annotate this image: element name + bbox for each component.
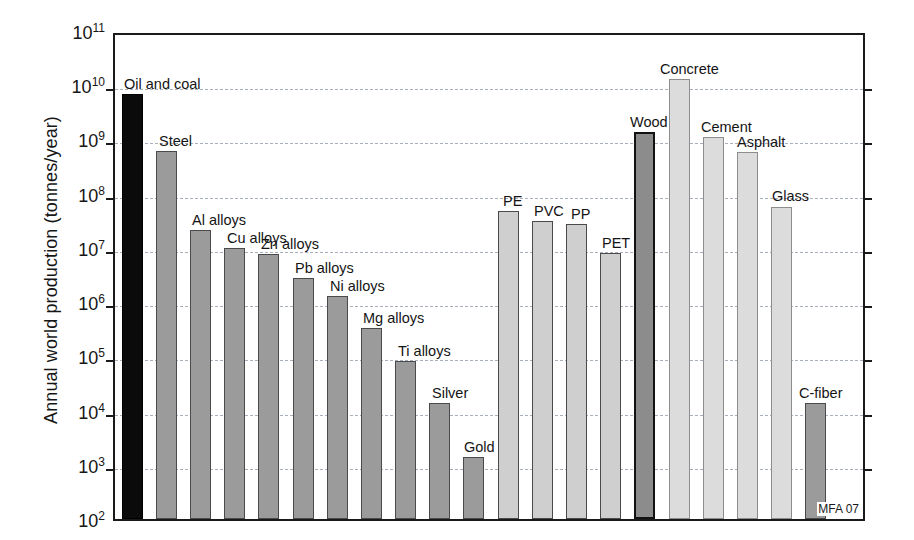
y-tick-label: 1010 — [72, 78, 105, 96]
axis-tick-mark — [106, 143, 115, 145]
bar-label-gold: Gold — [464, 440, 495, 455]
bar-wood — [634, 132, 655, 519]
y-tick-label: 108 — [78, 187, 105, 205]
bar-ni-alloys — [327, 296, 348, 519]
bar-cement — [703, 137, 724, 519]
bar-label-cement: Cement — [701, 120, 752, 135]
bar-zn-alloys — [258, 254, 279, 519]
bar-concrete — [669, 79, 690, 519]
bar-label-c-fiber: C-fiber — [799, 386, 843, 401]
axis-tick-mark — [863, 143, 872, 145]
bar-pet — [600, 253, 621, 519]
axis-tick-mark — [863, 198, 872, 200]
bar-label-pp: PP — [571, 207, 590, 222]
gridline — [115, 89, 863, 90]
bar-ti-alloys — [395, 361, 416, 519]
bar-label-ti-alloys: Ti alloys — [398, 344, 451, 359]
axis-tick-mark — [863, 415, 872, 417]
bar-label-pb-alloys: Pb alloys — [295, 261, 354, 276]
axis-tick-mark — [106, 252, 115, 254]
bar-label-pet: PET — [602, 236, 630, 251]
y-tick-label: 104 — [78, 404, 105, 422]
bar-label-concrete: Concrete — [660, 62, 719, 77]
y-tick-label: 105 — [78, 349, 105, 367]
axis-tick-mark — [863, 469, 872, 471]
axis-tick-mark — [106, 360, 115, 362]
y-tick-label: 109 — [78, 132, 105, 150]
bar-label-ni-alloys: Ni alloys — [330, 279, 385, 294]
bar-cu-alloys — [224, 248, 245, 519]
bar-pp — [566, 224, 587, 519]
axis-tick-mark — [106, 306, 115, 308]
y-tick-label: 106 — [78, 295, 105, 313]
bar-label-glass: Glass — [772, 189, 809, 204]
bar-label-al-alloys: Al alloys — [192, 213, 246, 228]
y-tick-label: 1011 — [73, 24, 106, 42]
bar-label-pvc: PVC — [534, 204, 564, 219]
bar-mg-alloys — [361, 328, 382, 519]
bar-label-oil-and-coal: Oil and coal — [124, 77, 201, 92]
axis-tick-mark — [863, 306, 872, 308]
bar-pb-alloys — [293, 278, 314, 519]
credit-annotation: MFA 07 — [817, 502, 860, 516]
y-axis-tick-labels: 10210310410510610710810910101011 — [0, 0, 105, 540]
y-tick-label: 102 — [78, 512, 105, 530]
y-tick-label: 107 — [78, 241, 105, 259]
bar-silver — [429, 403, 450, 519]
bar-pvc — [532, 221, 553, 519]
bar-glass — [771, 207, 792, 520]
bar-steel — [156, 151, 177, 519]
bar-asphalt — [737, 152, 758, 519]
axis-tick-mark — [863, 252, 872, 254]
axis-tick-mark — [863, 360, 872, 362]
y-tick-label: 103 — [78, 458, 105, 476]
axis-tick-mark — [106, 415, 115, 417]
bar-al-alloys — [190, 230, 211, 519]
bar-label-mg-alloys: Mg alloys — [363, 311, 424, 326]
bar-gold — [463, 457, 484, 519]
axis-tick-mark — [106, 198, 115, 200]
bar-oil-and-coal — [122, 94, 143, 519]
chart-page: Annual world production (tonnes/year) 10… — [0, 0, 914, 540]
bar-label-steel: Steel — [159, 134, 192, 149]
bar-pe — [498, 211, 519, 519]
bar-label-asphalt: Asphalt — [737, 135, 785, 150]
plot-inner: Oil and coalSteelAl alloysCu alloysZn al… — [115, 35, 863, 519]
axis-tick-mark — [106, 469, 115, 471]
plot-area: Oil and coalSteelAl alloysCu alloysZn al… — [113, 33, 865, 521]
bar-label-pe: PE — [503, 194, 522, 209]
bar-label-zn-alloys: Zn alloys — [261, 237, 319, 252]
axis-tick-mark — [106, 89, 115, 91]
bar-label-silver: Silver — [432, 386, 468, 401]
bar-label-wood: Wood — [630, 115, 668, 130]
axis-tick-mark — [863, 89, 872, 91]
